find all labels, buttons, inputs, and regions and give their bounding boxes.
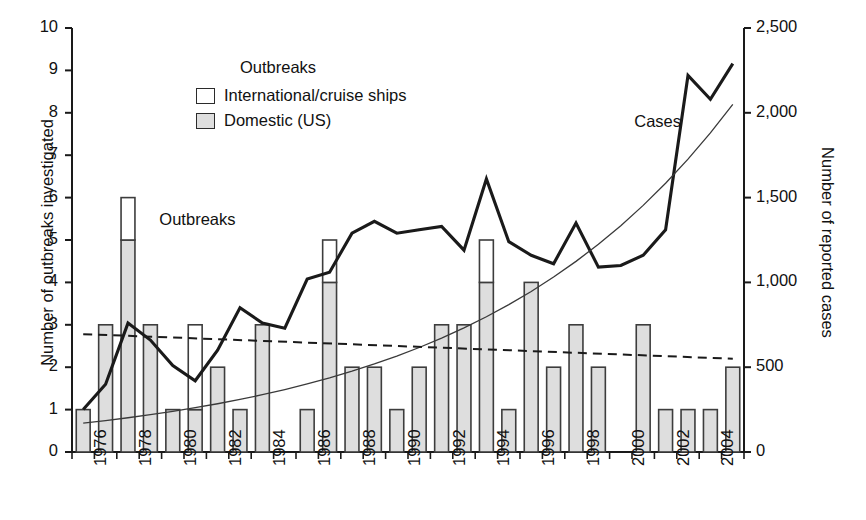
x-tick-label-2004: 2004: [718, 429, 737, 466]
bar-domestic-1988: [345, 367, 359, 452]
bar-international-1978: [121, 198, 135, 240]
bar-domestic-1990: [390, 410, 404, 452]
x-tick-label-1982: 1982: [226, 429, 245, 466]
x-tick-label-1992: 1992: [450, 429, 469, 466]
y-tick-label-left-10: 10: [18, 17, 58, 36]
y-tick-label-left-1: 1: [18, 399, 58, 418]
y-tick-label-left-3: 3: [18, 314, 58, 333]
x-tick-label-1986: 1986: [315, 429, 334, 466]
y-tick-label-left-7: 7: [18, 144, 58, 163]
x-tick-label-1978: 1978: [136, 429, 155, 466]
bar-domestic-1980: [166, 410, 180, 452]
bar-domestic-1984: [255, 325, 269, 452]
chart-root: Number of outbreaks investigated Number …: [0, 0, 866, 520]
x-tick-label-2002: 2002: [674, 429, 693, 466]
x-tick-label-1996: 1996: [539, 429, 558, 466]
x-tick-label-2000: 2000: [629, 429, 648, 466]
outbreaks-line-annotation: Outbreaks: [159, 210, 235, 229]
cases-line-annotation: Cases: [634, 112, 681, 131]
bar-domestic-1976: [76, 410, 90, 452]
y-tick-label-right-1,000: 1,000: [756, 271, 808, 290]
bar-domestic-2002: [659, 410, 673, 452]
y-tick-label-left-0: 0: [18, 441, 58, 460]
bar-domestic-1978: [121, 240, 135, 452]
x-tick-label-1984: 1984: [270, 429, 289, 466]
x-tick-label-1988: 1988: [360, 429, 379, 466]
bar-domestic-1994: [479, 282, 493, 452]
outbreaks-trend-line: [83, 334, 733, 359]
y-tick-label-left-9: 9: [18, 59, 58, 78]
x-tick-label-1980: 1980: [181, 429, 200, 466]
y-tick-label-right-2,000: 2,000: [756, 102, 808, 121]
x-tick-label-1998: 1998: [584, 429, 603, 466]
y-tick-label-right-500: 500: [756, 356, 808, 375]
x-tick-label-1976: 1976: [91, 429, 110, 466]
cases-trend-line: [83, 104, 733, 423]
bar-domestic-1982: [211, 367, 225, 452]
bar-domestic-1992: [435, 325, 449, 452]
y-tick-label-right-0: 0: [756, 441, 808, 460]
y-tick-label-left-6: 6: [18, 187, 58, 206]
x-tick-label-1994: 1994: [494, 429, 513, 466]
bar-domestic-2004: [703, 410, 717, 452]
y-tick-label-right-1,500: 1,500: [756, 187, 808, 206]
x-tick-label-1990: 1990: [405, 429, 424, 466]
y-tick-label-left-4: 4: [18, 271, 58, 290]
y-tick-label-left-5: 5: [18, 229, 58, 248]
bar-domestic-1987: [323, 282, 337, 452]
bar-domestic-1986: [300, 410, 314, 452]
y-tick-label-left-2: 2: [18, 356, 58, 375]
bar-domestic-1996: [524, 282, 538, 452]
y-tick-label-left-8: 8: [18, 102, 58, 121]
bar-domestic-1998: [569, 325, 583, 452]
y-tick-label-right-2,500: 2,500: [756, 17, 808, 36]
bar-international-1994: [479, 240, 493, 282]
